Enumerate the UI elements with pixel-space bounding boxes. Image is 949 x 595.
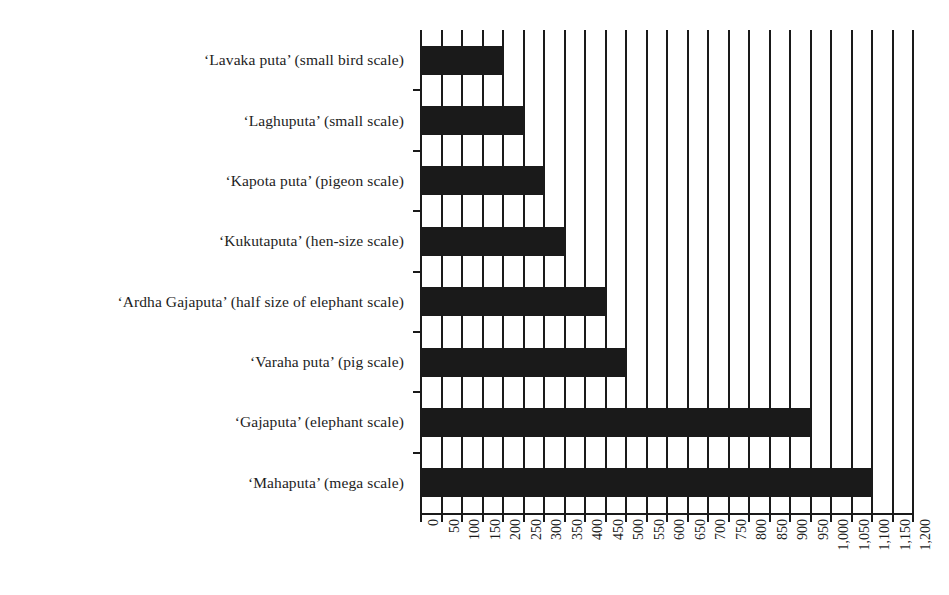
- category-label: ‘Varaha puta’ (pig scale): [250, 347, 404, 377]
- gridline: [482, 30, 484, 513]
- y-axis-tick: [413, 210, 421, 212]
- bar: [421, 348, 626, 377]
- x-axis-tick-label: 1,150: [898, 519, 914, 551]
- x-axis-tick-label: 0: [426, 519, 442, 526]
- x-axis-tick-labels: 0501001502002503003504004505005506006507…: [421, 519, 921, 589]
- gridline: [502, 30, 504, 513]
- gridline: [728, 30, 730, 513]
- x-axis-tick-label: 350: [570, 519, 586, 540]
- x-axis-tick-label: 950: [816, 519, 832, 540]
- x-axis-tick-label: 1,100: [877, 519, 893, 551]
- gridline: [687, 30, 689, 513]
- gridline: [707, 30, 709, 513]
- bar: [421, 166, 544, 195]
- gridline: [441, 30, 443, 513]
- gridline: [810, 30, 812, 513]
- y-axis-tick: [413, 150, 421, 152]
- x-axis-tick-label: 900: [795, 519, 811, 540]
- category-label: ‘Gajaputa’ (elephant scale): [235, 407, 404, 437]
- gridline: [666, 30, 668, 513]
- gridline: [564, 30, 566, 513]
- bar: [421, 287, 606, 316]
- gridline: [851, 30, 853, 513]
- bar: [421, 106, 524, 135]
- x-axis-tick-label: 1,200: [918, 519, 934, 551]
- bar: [421, 46, 503, 75]
- gridline: [543, 30, 545, 513]
- x-axis-tick-label: 300: [549, 519, 565, 540]
- y-axis-tick: [413, 89, 421, 91]
- x-axis-tick-label: 850: [775, 519, 791, 540]
- y-axis-tick: [413, 391, 421, 393]
- category-label: ‘Kapota puta’ (pigeon scale): [225, 166, 404, 196]
- x-axis-tick-label: 100: [467, 519, 483, 540]
- gridline: [892, 30, 894, 513]
- y-axis-tick: [413, 331, 421, 333]
- x-axis-tick-label: 650: [693, 519, 709, 540]
- x-axis-tick-label: 800: [754, 519, 770, 540]
- x-axis-tick-label: 750: [734, 519, 750, 540]
- x-axis-tick-label: 600: [672, 519, 688, 540]
- x-axis-tick-label: 400: [590, 519, 606, 540]
- category-label: ‘Kukutaputa’ (hen-size scale): [219, 226, 404, 256]
- gridline: [748, 30, 750, 513]
- gridline: [461, 30, 463, 513]
- gridline: [912, 30, 914, 513]
- x-axis-tick-label: 50: [447, 519, 463, 533]
- gridline: [830, 30, 832, 513]
- gridline: [625, 30, 627, 513]
- x-axis-tick-label: 550: [652, 519, 668, 540]
- x-axis-tick-label: 1,000: [836, 519, 852, 551]
- gridline: [789, 30, 791, 513]
- category-axis-labels: ‘Lavaka puta’ (small bird scale)‘Laghupu…: [0, 30, 412, 513]
- x-axis-tick-label: 250: [529, 519, 545, 540]
- category-label: ‘Mahaputa’ (mega scale): [248, 468, 404, 498]
- x-axis-tick-label: 500: [631, 519, 647, 540]
- plot-area: [421, 30, 913, 513]
- y-axis-tick: [413, 271, 421, 273]
- bar-chart: ‘Lavaka puta’ (small bird scale)‘Laghupu…: [0, 0, 949, 595]
- category-label: ‘Ardha Gajaputa’ (half size of elephant …: [117, 287, 404, 317]
- gridline: [646, 30, 648, 513]
- x-axis-tick-label: 700: [713, 519, 729, 540]
- bar: [421, 408, 811, 437]
- gridline: [769, 30, 771, 513]
- y-axis-tick: [413, 452, 421, 454]
- gridline: [584, 30, 586, 513]
- gridline: [523, 30, 525, 513]
- gridline: [871, 30, 873, 513]
- x-axis-tick-label: 150: [488, 519, 504, 540]
- x-axis-tick-label: 450: [611, 519, 627, 540]
- gridline: [605, 30, 607, 513]
- bar: [421, 227, 565, 256]
- x-axis-tick-label: 200: [508, 519, 524, 540]
- category-label: ‘Laghuputa’ (small scale): [243, 106, 404, 136]
- x-axis-tick-label: 1,050: [857, 519, 873, 551]
- category-label: ‘Lavaka puta’ (small bird scale): [204, 45, 404, 75]
- bar: [421, 468, 872, 497]
